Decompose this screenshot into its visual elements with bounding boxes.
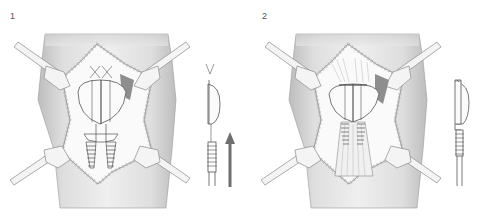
side-view-diagram	[196, 0, 241, 217]
knee-surgery-illustration	[251, 0, 451, 217]
panel-1: 1	[0, 0, 241, 217]
panel-2: 2	[241, 0, 483, 217]
side-view-diagram	[439, 0, 483, 217]
knee-surgery-illustration	[0, 0, 200, 217]
arrow-up-icon	[225, 132, 235, 187]
